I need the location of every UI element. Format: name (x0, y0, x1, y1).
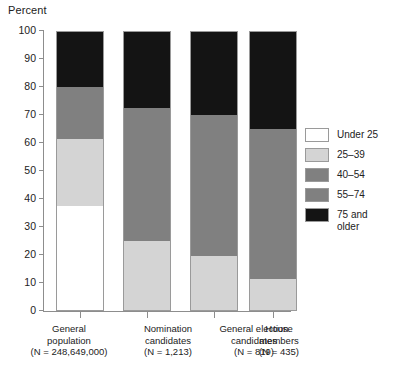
category-label-line2: candidates (122, 335, 214, 347)
legend-swatch (305, 128, 329, 142)
category-label-line1: General (14, 313, 124, 335)
stacked-bar-chart: Percent 0102030405060708090100 Generalpo… (0, 0, 397, 373)
category-label-line2: population (14, 335, 124, 347)
x-tick-mark (214, 311, 215, 318)
y-tick-label: 90 (24, 52, 36, 64)
legend-label: 25–39 (337, 148, 365, 161)
bar-segment (249, 279, 297, 311)
y-axis-title: Percent (8, 4, 47, 16)
bar-segment (190, 256, 238, 311)
bar-group (44, 31, 290, 311)
category-label-line1: Nomination (122, 313, 214, 335)
bar-segment (56, 87, 104, 105)
bar-segment (56, 105, 104, 139)
bar-4 (249, 31, 297, 311)
x-tick-mark (80, 311, 81, 318)
legend-label: Under 25 (337, 128, 378, 141)
y-tick-label: 70 (24, 108, 36, 120)
legend-item-1[interactable]: Under 25 (305, 128, 395, 142)
bar-segment (249, 195, 297, 279)
y-tick-label: 50 (24, 164, 36, 176)
plot-area: 0102030405060708090100 (44, 31, 290, 311)
y-tick-label: 40 (24, 192, 36, 204)
bar-1 (56, 31, 104, 311)
legend-label: 40–54 (337, 168, 365, 181)
bar-segment (123, 108, 171, 163)
legend-item-3[interactable]: 40–54 (305, 168, 395, 182)
legend-swatch (305, 188, 329, 202)
legend-item-2[interactable]: 25–39 (305, 148, 395, 162)
y-tick-label: 30 (24, 220, 36, 232)
category-label-1: Generalpopulation(N = 248,649,000) (14, 313, 124, 358)
category-sample-size: (N = 435) (238, 346, 320, 358)
bar-3 (190, 31, 238, 311)
y-tick-label: 60 (24, 136, 36, 148)
legend-swatch (305, 148, 329, 162)
y-tick-label: 100 (18, 24, 36, 36)
y-tick-label: 80 (24, 80, 36, 92)
bar-segment (249, 129, 297, 195)
legend-label: 55–74 (337, 188, 365, 201)
bar-segment (56, 139, 104, 206)
category-sample-size: (N = 248,649,000) (14, 346, 124, 358)
bar-segment (123, 163, 171, 241)
category-label-line1: House (238, 313, 320, 335)
bar-segment (56, 31, 104, 87)
legend-label: 75 and older (337, 208, 368, 232)
category-label-2: Nominationcandidates(N = 1,213) (122, 313, 214, 358)
legend-item-5[interactable]: 75 and older (305, 208, 395, 232)
x-tick-mark (147, 311, 148, 318)
category-label-line2: members (238, 335, 320, 347)
category-sample-size: (N = 1,213) (122, 346, 214, 358)
category-label-4: Housemembers(N = 435) (238, 313, 320, 358)
bar-segment (123, 31, 171, 108)
bar-segment (190, 31, 238, 115)
legend-swatch (305, 168, 329, 182)
y-tick-label: 10 (24, 276, 36, 288)
bar-segment (190, 115, 238, 172)
chart-legend: Under 2525–3940–5455–7475 and older (305, 128, 395, 238)
x-tick-mark (273, 311, 274, 318)
bar-segment (123, 241, 171, 311)
legend-swatch (305, 208, 329, 222)
bar-segment (249, 31, 297, 129)
bar-segment (190, 172, 238, 256)
y-tick-label: 20 (24, 248, 36, 260)
legend-item-4[interactable]: 55–74 (305, 188, 395, 202)
bar-2 (123, 31, 171, 311)
bar-segment (56, 206, 104, 311)
